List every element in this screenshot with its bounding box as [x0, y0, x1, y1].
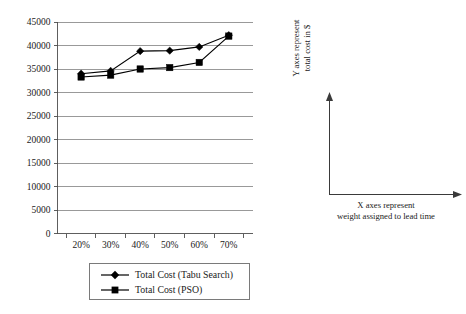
x-tick-label: 40%	[131, 240, 149, 250]
legend-item-pso: Total Cost (PSO)	[100, 283, 249, 297]
y-tick-label: 35000	[27, 64, 51, 74]
data-point-marker-diamond	[136, 47, 143, 54]
legend-item-tabu-search: Total Cost (Tabu Search)	[100, 268, 249, 282]
y-tick-label: 15000	[27, 158, 51, 168]
y-tick-label: 20000	[27, 135, 51, 145]
y-tick-label: 0	[46, 229, 51, 239]
series-line-2	[81, 36, 229, 77]
figure-container: 0500010000150002000025000300003500040000…	[0, 0, 466, 314]
data-point-marker-diamond	[196, 43, 203, 50]
data-point-marker-square	[137, 66, 143, 72]
data-point-marker-square	[78, 74, 84, 80]
x-tick-label: 20%	[72, 240, 90, 250]
data-point-marker-square	[167, 64, 173, 70]
data-point-marker-square	[196, 59, 202, 65]
y-tick-label: 5000	[32, 205, 51, 215]
annot-y-label-line2: total cost in $	[302, 0, 313, 98]
data-point-marker-square	[107, 72, 113, 78]
annot-x-axis-label: X axes represent weight assigned to lead…	[310, 200, 462, 222]
legend-label-pso: Total Cost (PSO)	[135, 284, 202, 296]
annot-y-arrowhead-icon	[326, 92, 333, 101]
y-tick-label: 40000	[27, 41, 51, 51]
gridlines-group	[54, 22, 254, 234]
y-tick-label: 10000	[27, 182, 51, 192]
y-tick-labels-group: 0500010000150002000025000300003500040000…	[27, 17, 51, 239]
axis-explanation-diagram: Y axes represent total cost in $ X axes …	[296, 92, 466, 222]
x-axis-ticks-group	[66, 234, 243, 238]
y-tick-label: 45000	[27, 17, 51, 27]
annot-x-label-line2: weight assigned to lead time	[310, 211, 462, 222]
data-point-marker-diamond	[166, 47, 173, 54]
series-markers-group	[77, 31, 232, 80]
x-tick-label: 50%	[161, 240, 179, 250]
annot-x-label-line1: X axes represent	[310, 200, 462, 211]
chart-legend: Total Cost (Tabu Search) Total Cost (PSO…	[89, 263, 250, 300]
y-tick-label: 25000	[27, 111, 51, 121]
x-tick-label: 70%	[220, 240, 238, 250]
x-tick-label: 30%	[102, 240, 120, 250]
annot-x-arrowhead-icon	[453, 191, 462, 198]
x-tick-label: 60%	[191, 240, 209, 250]
x-tick-labels-group: 20%30%40%50%60%70%	[72, 240, 237, 250]
annot-y-label-line1: Y axes represent	[291, 0, 302, 98]
legend-marker-diamond-icon	[100, 269, 130, 281]
series-paths-group	[81, 35, 229, 77]
legend-label-tabu-search: Total Cost (Tabu Search)	[135, 269, 233, 281]
annot-y-axis-label: Y axes represent total cost in $	[291, 0, 312, 98]
y-tick-label: 30000	[27, 88, 51, 98]
data-point-marker-square	[226, 33, 232, 39]
legend-marker-square-icon	[100, 284, 130, 296]
